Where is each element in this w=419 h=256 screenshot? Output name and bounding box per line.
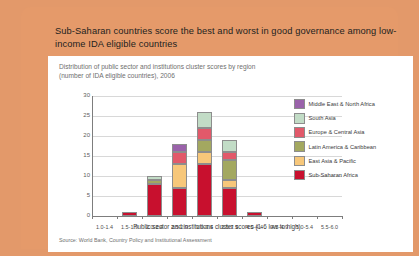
bar-segment — [147, 180, 162, 184]
x-axis-label: Public sector and institutions cluster s… — [92, 223, 342, 230]
chart-subtitle: Distribution of public sector and instit… — [59, 62, 359, 80]
y-axis-tick-label: 30 — [50, 92, 90, 98]
bar-segment — [197, 164, 212, 216]
y-axis-tick-label: 25 — [50, 112, 90, 118]
stacked-bar[interactable] — [197, 112, 212, 216]
x-axis-tick-mark — [92, 216, 93, 219]
legend-item[interactable]: Sub-Saharan Africa — [294, 168, 412, 182]
bar-segment — [172, 144, 187, 152]
bar-segment — [222, 160, 237, 180]
report-card: Sub-Saharan countries score the best and… — [21, 7, 398, 249]
chart-panel: Distribution of public sector and instit… — [48, 56, 413, 252]
legend-item[interactable]: South Asia — [294, 111, 412, 125]
legend-swatch-icon — [294, 127, 305, 138]
chart-subtitle-line2: (number of IDA eligible countries), 2006 — [59, 71, 359, 80]
bar-segment — [172, 188, 187, 216]
x-axis-tick-mark — [317, 216, 318, 219]
legend-label: East Asia & Pacific — [309, 158, 356, 164]
y-axis-tick-label: 20 — [50, 132, 90, 138]
chart-subtitle-line1: Distribution of public sector and instit… — [59, 62, 359, 71]
bar-segment — [197, 128, 212, 140]
legend-label: Latin America & Caribbean — [309, 144, 377, 150]
x-axis-tick-mark — [167, 216, 168, 219]
x-axis-tick-mark — [142, 216, 143, 219]
x-axis-tick-mark — [342, 216, 343, 219]
x-axis-tick-mark — [192, 216, 193, 219]
y-axis-tick-label: 5 — [50, 192, 90, 198]
screenshot-root: Sub-Saharan countries score the best and… — [0, 0, 419, 256]
stacked-bar[interactable] — [222, 140, 237, 216]
y-axis-tick-label: 0 — [50, 212, 90, 218]
bar-segment — [222, 152, 237, 160]
legend-swatch-icon — [294, 170, 305, 181]
stacked-bar[interactable] — [147, 176, 162, 216]
bar-segment — [222, 188, 237, 216]
legend-label: Middle East & North Africa — [309, 101, 375, 107]
legend-label: Europe & Central Asia — [309, 129, 365, 135]
y-axis-tick-label: 10 — [50, 172, 90, 178]
source-note: Source: World Bank, Country Policy and I… — [59, 237, 212, 243]
legend-item[interactable]: Latin America & Caribbean — [294, 140, 412, 154]
chart-legend: Middle East & North AfricaSouth AsiaEuro… — [294, 97, 412, 182]
legend-label: South Asia — [309, 115, 336, 121]
bar-segment — [197, 140, 212, 152]
x-axis-tick-mark — [217, 216, 218, 219]
page-title: Sub-Saharan countries score the best and… — [55, 25, 405, 50]
x-axis-tick-mark — [242, 216, 243, 219]
x-axis-tick-mark — [117, 216, 118, 219]
legend-item[interactable]: East Asia & Pacific — [294, 154, 412, 168]
bar-segment — [197, 112, 212, 128]
bar-segment — [147, 176, 162, 180]
bar-segment — [172, 152, 187, 164]
bar-segment — [222, 140, 237, 152]
legend-item[interactable]: Middle East & North Africa — [294, 97, 412, 111]
legend-swatch-icon — [294, 113, 305, 124]
x-axis-tick-mark — [292, 216, 293, 219]
bar-segment — [147, 184, 162, 216]
legend-swatch-icon — [294, 141, 305, 152]
x-axis-tick-mark — [267, 216, 268, 219]
legend-swatch-icon — [294, 99, 305, 110]
stacked-bar[interactable] — [172, 144, 187, 216]
bar-segment — [222, 180, 237, 188]
bar-segment — [197, 152, 212, 164]
bar-segment — [172, 164, 187, 188]
legend-swatch-icon — [294, 156, 305, 167]
legend-item[interactable]: Europe & Central Asia — [294, 125, 412, 139]
legend-label: Sub-Saharan Africa — [309, 172, 358, 178]
y-axis-tick-label: 15 — [50, 152, 90, 158]
